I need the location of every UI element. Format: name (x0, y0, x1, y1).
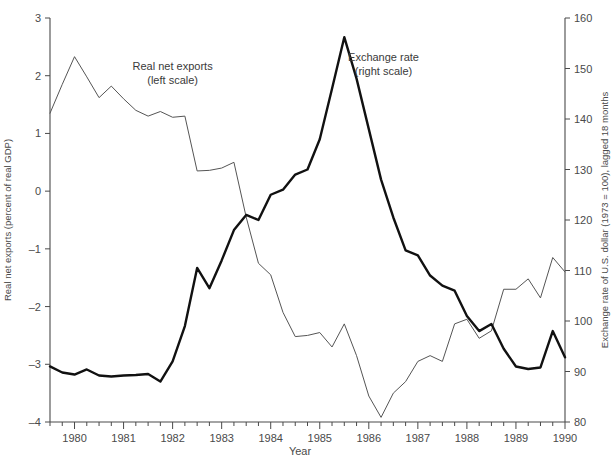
right-axis-tick-labels: 1601501401301201101009080 (574, 12, 592, 428)
economic-line-chart: 3210–1–2–3–4 1601501401301201101009080 1… (0, 0, 616, 462)
left-axis-tick-labels: 3210–1–2–3–4 (29, 12, 41, 428)
x-tick-label: 1981 (111, 432, 135, 444)
left-tick-label: –3 (29, 358, 41, 370)
chart-annotations: Real net exports(left scale)Exchange rat… (133, 51, 419, 86)
right-tick-label: 110 (574, 265, 592, 277)
real-net-exports-label-line1: Real net exports (133, 60, 214, 72)
left-tick-label: –4 (29, 416, 41, 428)
left-tick-label: 2 (35, 70, 41, 82)
right-tick-label: 80 (574, 416, 586, 428)
real-net-exports-label-line2: (left scale) (147, 74, 198, 86)
x-tick-label: 1985 (308, 432, 332, 444)
right-axis-ticks (565, 18, 570, 422)
left-axis-ticks (45, 18, 50, 422)
x-tick-label: 1990 (553, 432, 577, 444)
left-tick-label: 1 (35, 127, 41, 139)
x-tick-label: 1986 (357, 432, 381, 444)
x-tick-label: 1982 (160, 432, 184, 444)
right-axis-title: Exchange rate of U.S. dollar (1973 = 100… (599, 92, 610, 349)
exchange-rate-label-line1: Exchange rate (348, 51, 419, 63)
left-tick-label: 0 (35, 185, 41, 197)
series-real-net-exports (50, 57, 565, 418)
right-tick-label: 160 (574, 12, 592, 24)
right-tick-label: 120 (574, 214, 592, 226)
real-net-exports-label: Real net exports(left scale) (133, 60, 214, 86)
right-tick-label: 100 (574, 315, 592, 327)
left-tick-label: –1 (29, 243, 41, 255)
x-tick-label: 1987 (406, 432, 430, 444)
x-axis-title: Year (289, 445, 312, 457)
x-tick-label: 1989 (504, 432, 528, 444)
right-tick-label: 130 (574, 164, 592, 176)
left-tick-label: 3 (35, 12, 41, 24)
x-tick-label: 1983 (209, 432, 233, 444)
x-tick-label: 1980 (62, 432, 86, 444)
left-axis-title: Real net exports (percent of real GDP) (2, 139, 13, 301)
x-axis-tick-labels: 1980198119821983198419851986198719881989… (62, 432, 577, 444)
right-tick-label: 90 (574, 366, 586, 378)
right-tick-label: 140 (574, 113, 592, 125)
x-tick-label: 1984 (258, 432, 282, 444)
exchange-rate-label-line2: (right scale) (355, 65, 412, 77)
x-axis-ticks (50, 422, 565, 429)
series-exchange-rate (50, 37, 565, 381)
x-tick-label: 1988 (455, 432, 479, 444)
left-tick-label: –2 (29, 301, 41, 313)
right-tick-label: 150 (574, 63, 592, 75)
exchange-rate-label: Exchange rate(right scale) (348, 51, 419, 77)
